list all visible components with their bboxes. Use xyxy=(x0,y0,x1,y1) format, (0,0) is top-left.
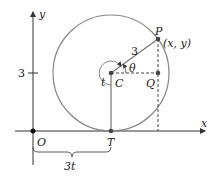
q-label: Q xyxy=(146,77,155,90)
point-q xyxy=(156,71,161,76)
origin-point xyxy=(31,129,36,134)
radius-label: 3 xyxy=(131,45,138,58)
p-coords-label: (x, y) xyxy=(163,37,191,50)
tangent-point xyxy=(109,129,114,134)
cycloid-diagram: x y 3 3t O T C Q P (x, y) 3 θ t xyxy=(0,0,215,178)
p-label: P xyxy=(154,25,163,38)
x-axis-label: x xyxy=(201,117,208,130)
y-tick-label: 3 xyxy=(18,67,25,80)
tangent-label: T xyxy=(107,136,116,149)
y-axis-label: y xyxy=(38,8,46,21)
center-point xyxy=(109,71,114,76)
center-label: C xyxy=(115,77,124,90)
origin-label: O xyxy=(37,136,46,149)
t-label: t xyxy=(101,76,106,89)
theta-arc xyxy=(123,64,126,73)
theta-label: θ xyxy=(129,62,136,75)
distance-label: 3t xyxy=(64,160,76,173)
